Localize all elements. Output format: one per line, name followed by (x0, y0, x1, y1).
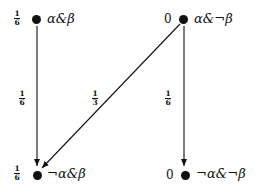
node-a-and-b-probability: 1 6 (14, 10, 20, 26)
node-a-and-notb-label: α&¬β (194, 12, 233, 26)
node-nota-and-notb-probability: 0 (166, 169, 174, 181)
edge-weight-left: 1 6 (19, 90, 25, 106)
node-nota-and-b-dot (33, 171, 42, 180)
weight-numerator: 1 (92, 90, 97, 97)
weight-numerator: 1 (19, 90, 24, 97)
edge-a-and-notb-to-nota-and-b (42, 24, 180, 168)
weight-denominator: 6 (19, 99, 24, 106)
node-a-and-notb-dot (179, 15, 188, 24)
node-nota-and-b-probability: 1 6 (14, 165, 20, 181)
node-a-and-b-dot (32, 15, 41, 24)
prob-denominator: 6 (14, 174, 19, 181)
weight-denominator: 3 (92, 99, 97, 106)
node-nota-and-notb-dot (181, 171, 190, 180)
prob-denominator: 6 (14, 19, 19, 26)
edge-weight-diagonal: 1 3 (92, 90, 98, 106)
node-nota-and-b-label: ¬α&β (47, 167, 86, 181)
weight-denominator: 6 (165, 99, 170, 106)
prob-numerator: 1 (14, 165, 19, 172)
node-a-and-notb-probability: 0 (164, 13, 172, 25)
edge-weight-right: 1 6 (165, 90, 171, 106)
prob-numerator: 1 (14, 10, 19, 17)
node-a-and-b-label: α&β (47, 12, 75, 26)
weight-numerator: 1 (165, 90, 170, 97)
edges-layer (0, 0, 257, 194)
node-nota-and-notb-label: ¬α&¬β (196, 167, 246, 181)
